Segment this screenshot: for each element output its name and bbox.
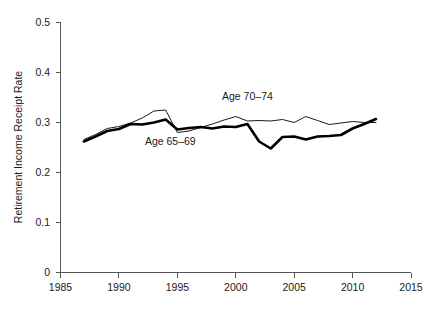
- y-tick-label-2: 0.2: [35, 166, 50, 178]
- y-axis-ticks: [56, 23, 61, 273]
- label-age-65-69: Age 65–69: [145, 135, 196, 147]
- x-tick-label-1985: 1985: [49, 281, 73, 293]
- label-age-70-74: Age 70–74: [222, 90, 273, 102]
- chart-figure: 0 0.1 0.2 0.3 0.4 0.5 1985 1990 1995 200…: [0, 0, 428, 311]
- y-tick-label-5: 0.5: [35, 16, 50, 28]
- x-tick-label-2005: 2005: [283, 281, 307, 293]
- y-axis-title: Retirement Income Receipt Rate: [12, 71, 24, 223]
- y-tick-label-0: 0: [44, 266, 50, 278]
- y-tick-label-3: 0.3: [35, 116, 50, 128]
- x-tick-label-1995: 1995: [166, 281, 190, 293]
- x-tick-label-2015: 2015: [399, 281, 423, 293]
- line-chart-canvas: 0 0.1 0.2 0.3 0.4 0.5 1985 1990 1995 200…: [0, 0, 428, 311]
- x-axis-ticks: [61, 273, 412, 278]
- x-tick-label-2000: 2000: [224, 281, 248, 293]
- x-tick-label-2010: 2010: [341, 281, 365, 293]
- y-tick-label-1: 0.1: [35, 216, 50, 228]
- y-tick-label-4: 0.4: [35, 66, 50, 78]
- y-axis-tick-labels: 0 0.1 0.2 0.3 0.4 0.5: [35, 16, 50, 278]
- x-tick-label-1990: 1990: [107, 281, 131, 293]
- x-axis-tick-labels: 1985 1990 1995 2000 2005 2010 2015: [49, 281, 423, 293]
